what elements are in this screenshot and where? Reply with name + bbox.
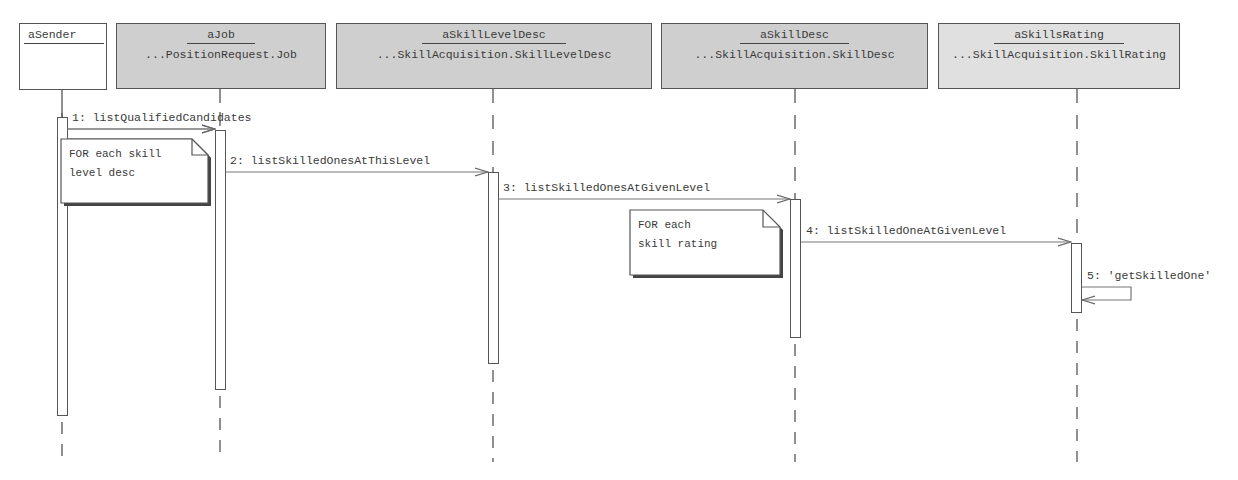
- object-name: aSkillLevelDesc: [337, 28, 651, 44]
- object-name: aSkillDesc: [662, 28, 927, 44]
- object-class: ...SkillAcquisition.SkillLevelDesc: [337, 48, 651, 62]
- object-asender[interactable]: aSender: [19, 23, 107, 90]
- object-ajob[interactable]: aJob ...PositionRequest.Job: [116, 23, 326, 89]
- message-label-2: 2: listSkilledOnesAtThisLevel: [230, 154, 430, 168]
- object-askillsrating[interactable]: aSkillsRating ...SkillAcquisition.SkillR…: [938, 23, 1180, 89]
- note-skill-rating: FOR each skill rating: [630, 210, 780, 275]
- object-class: ...PositionRequest.Job: [117, 48, 325, 62]
- object-name: aJob: [117, 28, 325, 44]
- message-label-1: 1: listQualifiedCandidates: [72, 111, 251, 125]
- activation-askillsrating: [1071, 243, 1082, 313]
- object-class: ...SkillAcquisition.SkillDesc: [662, 48, 927, 62]
- object-name: aSender: [24, 28, 104, 44]
- note-text: FOR each skill rating: [638, 216, 717, 254]
- note-text: FOR each skill level desc: [69, 145, 161, 183]
- object-name: aSkillsRating: [939, 28, 1179, 44]
- message-label-5: 5: 'getSkilledOne': [1087, 269, 1211, 283]
- message-arrow-5: [1082, 287, 1131, 300]
- message-label-3: 3: listSkilledOnesAtGivenLevel: [503, 181, 710, 195]
- object-askillleveldesc[interactable]: aSkillLevelDesc ...SkillAcquisition.Skil…: [336, 23, 652, 89]
- object-askilldesc[interactable]: aSkillDesc ...SkillAcquisition.SkillDesc: [661, 23, 928, 89]
- activation-ajob: [215, 130, 226, 390]
- activation-askilldesc: [790, 199, 801, 338]
- note-skill-level-desc: FOR each skill level desc: [61, 139, 208, 203]
- message-arrows: [67, 129, 1131, 300]
- activation-askillleveldesc: [488, 172, 499, 364]
- message-label-4: 4: listSkilledOneAtGivenLevel: [806, 224, 1006, 238]
- object-class: ...SkillAcquisition.SkillRating: [939, 48, 1179, 62]
